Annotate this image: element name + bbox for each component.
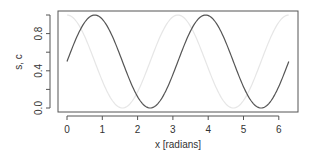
x-tick-label: 2 (135, 124, 141, 135)
x-tick-label: 6 (276, 124, 282, 135)
x-tick-label: 3 (170, 124, 176, 135)
y-tick-label: 0.0 (33, 101, 44, 115)
x-tick-label: 5 (241, 124, 247, 135)
x-tick-label: 0 (64, 124, 70, 135)
x-tick-label: 4 (205, 124, 211, 135)
x-axis-label: x [radians] (155, 139, 201, 150)
series-s-line (67, 15, 289, 108)
y-axis-label: s, c (13, 54, 24, 70)
x-axis: 0123456 (64, 116, 282, 135)
x-tick-label: 1 (100, 124, 106, 135)
y-axis: 0.00.40.8 (33, 15, 50, 115)
y-tick-label: 0.8 (33, 26, 44, 40)
line-chart: 0123456 0.00.40.8 x [radians] s, c (0, 0, 314, 164)
series-layer (67, 15, 289, 108)
y-tick-label: 0.4 (33, 63, 44, 77)
